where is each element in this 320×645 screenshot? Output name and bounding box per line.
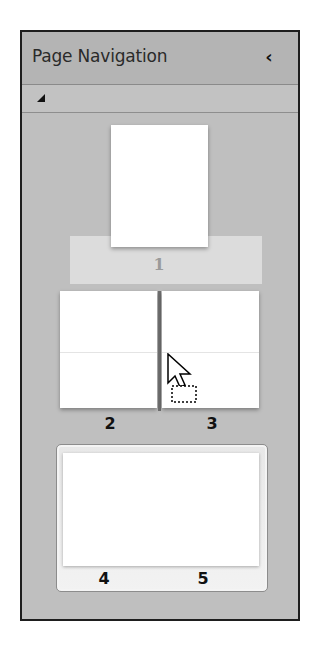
page-thumbnail-1[interactable]	[111, 125, 208, 247]
page-thumbnail-2[interactable]	[60, 291, 157, 408]
page-navigation-panel: Page Navigation ‹ 1 2 3 4 5	[20, 30, 300, 621]
page-number-2: 2	[95, 414, 125, 433]
panel-toolbar	[22, 85, 298, 113]
chevron-left-icon[interactable]: ‹	[260, 46, 278, 68]
page-number-5: 5	[188, 569, 218, 588]
page-number-3: 3	[197, 414, 227, 433]
page-thumbnail-4-5[interactable]	[63, 453, 259, 566]
spread-group-4-5[interactable]: 4 5	[56, 444, 268, 592]
panel-header: Page Navigation ‹	[22, 32, 298, 85]
page-thumbnails[interactable]: 1 2 3 4 5	[22, 113, 298, 619]
panel-title: Page Navigation	[32, 46, 167, 66]
drop-insertion-marker	[158, 291, 161, 411]
page-number-1: 1	[144, 255, 174, 274]
page-thumbnail-3[interactable]	[162, 291, 259, 408]
triangle-expand-icon[interactable]	[37, 94, 45, 102]
page-number-4: 4	[89, 569, 119, 588]
